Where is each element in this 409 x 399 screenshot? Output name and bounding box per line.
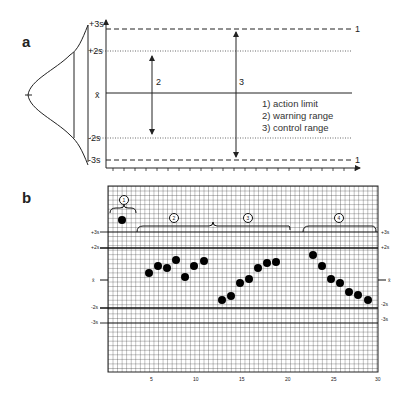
label-plus2s: +2s bbox=[88, 46, 103, 56]
point-g2-7 bbox=[200, 257, 208, 265]
control-range-arrow-label: 3 bbox=[239, 77, 244, 87]
b-left-label-plus2s: +2s bbox=[91, 244, 100, 250]
svg-text:1: 1 bbox=[123, 197, 126, 203]
svg-text:3: 3 bbox=[247, 215, 250, 221]
b-x-tick-15: 15 bbox=[239, 376, 245, 382]
b-x-tick-30: 30 bbox=[375, 376, 381, 382]
legend-item-2: 2) warning range bbox=[262, 110, 333, 121]
b-right-label-plus3s: +3s bbox=[381, 229, 390, 235]
action-limit-top-label: 1 bbox=[355, 24, 360, 34]
point-g2-6 bbox=[190, 262, 198, 270]
panel-a: a +3s +2s bbox=[22, 19, 360, 171]
point-g4-6 bbox=[354, 291, 362, 299]
group-brace-3: 3 bbox=[244, 214, 253, 223]
point-g3-3 bbox=[236, 279, 244, 287]
panel-b-label: b bbox=[22, 189, 31, 206]
label-minus2s: -2s bbox=[88, 133, 101, 143]
b-right-label-minus3s: -3s bbox=[381, 316, 388, 322]
action-limit-bottom-label: 1 bbox=[355, 155, 360, 165]
b-right-label-plus2s: +2s bbox=[381, 244, 390, 250]
point-g4-7 bbox=[364, 296, 372, 304]
point-g4-4 bbox=[336, 279, 344, 287]
b-right-label-mean: x̄ bbox=[388, 277, 391, 283]
b-x-tick-10: 10 bbox=[193, 376, 199, 382]
point-g4-3 bbox=[327, 275, 335, 283]
point-g2-4 bbox=[172, 256, 180, 264]
point-g3-7 bbox=[272, 258, 280, 266]
svg-text:2: 2 bbox=[173, 215, 176, 221]
figure: a +3s +2s bbox=[0, 0, 409, 399]
point-g4-1 bbox=[309, 251, 317, 259]
point-g3-2 bbox=[227, 292, 235, 300]
b-left-label-minus3s: -3s bbox=[91, 319, 98, 325]
b-x-tick-5: 5 bbox=[150, 376, 153, 382]
point-g2-1 bbox=[145, 269, 153, 277]
label-plus3s: +3s bbox=[89, 19, 104, 29]
panel-b: b +3s +2s x̄ -2s -3s +3s +2s x̄ -2s -3s … bbox=[22, 186, 391, 382]
point-g2-2 bbox=[154, 262, 162, 270]
point-g3-6 bbox=[263, 259, 271, 267]
b-x-tick-25: 25 bbox=[331, 376, 337, 382]
legend-item-1: 1) action limit bbox=[262, 98, 318, 109]
b-right-label-minus2s: -2s bbox=[381, 301, 388, 307]
b-left-label-plus3s: +3s bbox=[91, 229, 100, 235]
label-minus3s: -3s bbox=[88, 155, 101, 165]
label-mean: x̄ bbox=[95, 90, 100, 100]
point-g4-5 bbox=[345, 288, 353, 296]
panel-a-label: a bbox=[22, 33, 31, 50]
svg-text:4: 4 bbox=[338, 215, 341, 221]
b-left-label-mean: x̄ bbox=[92, 277, 95, 283]
warning-range-arrow-label: 2 bbox=[156, 77, 161, 87]
point-g4-2 bbox=[318, 262, 326, 270]
normal-curve bbox=[28, 25, 88, 165]
point-g3-4 bbox=[245, 275, 253, 283]
point-g2-5 bbox=[181, 273, 189, 281]
point-g3-5 bbox=[254, 264, 262, 272]
point-g2-3 bbox=[163, 264, 171, 272]
legend-item-3: 3) control range bbox=[262, 122, 329, 133]
point-g1-1 bbox=[118, 216, 126, 224]
b-left-label-minus2s: -2s bbox=[91, 304, 98, 310]
b-x-tick-20: 20 bbox=[285, 376, 291, 382]
point-g3-1 bbox=[218, 296, 226, 304]
